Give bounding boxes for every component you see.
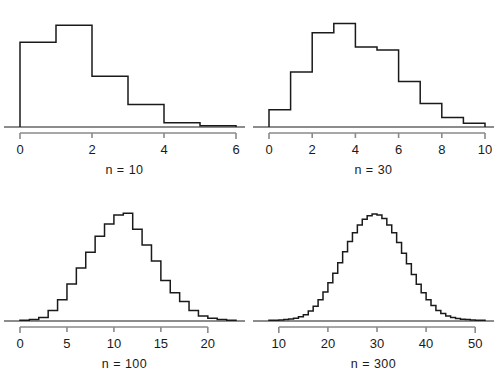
panel-caption-n-100: n = 100 <box>0 357 249 371</box>
x-axis-tick-label: 4 <box>160 142 167 157</box>
x-axis-tick-label: 10 <box>478 142 492 157</box>
x-axis-tick-label: 30 <box>370 336 384 351</box>
panel-n-300: 1020304050 n = 300 <box>249 194 498 388</box>
x-axis-tick-label: 10 <box>272 336 286 351</box>
x-axis-tick-label: 6 <box>232 142 239 157</box>
x-axis-tick-label: 10 <box>107 336 121 351</box>
x-axis-tick-label: 2 <box>88 142 95 157</box>
panel-caption-n-10: n = 10 <box>0 163 249 177</box>
x-axis-tick-label: 2 <box>309 142 316 157</box>
x-axis-tick-label: 50 <box>468 336 482 351</box>
panel-n-100: 05101520 n = 100 <box>0 194 249 388</box>
x-axis-tick-label: 20 <box>321 336 335 351</box>
x-axis-tick-label: 0 <box>16 336 23 351</box>
histogram-figure: 0246 n = 10 0246810 n = 30 05101520 n = … <box>0 0 498 388</box>
panel-caption-n-300: n = 300 <box>249 357 498 371</box>
x-axis-tick-label: 0 <box>265 142 272 157</box>
x-axis-tick-label: 15 <box>154 336 168 351</box>
x-axis-tick-label: 0 <box>16 142 23 157</box>
x-axis-tick-label: 8 <box>438 142 445 157</box>
x-axis-tick-label: 6 <box>395 142 402 157</box>
panel-n-30: 0246810 n = 30 <box>249 0 498 194</box>
x-axis-tick-label: 5 <box>63 336 70 351</box>
x-axis-tick-label: 4 <box>352 142 359 157</box>
x-axis-tick-label: 40 <box>419 336 433 351</box>
panel-n-10: 0246 n = 10 <box>0 0 249 194</box>
panel-caption-n-30: n = 30 <box>249 163 498 177</box>
x-axis-tick-label: 20 <box>201 336 215 351</box>
